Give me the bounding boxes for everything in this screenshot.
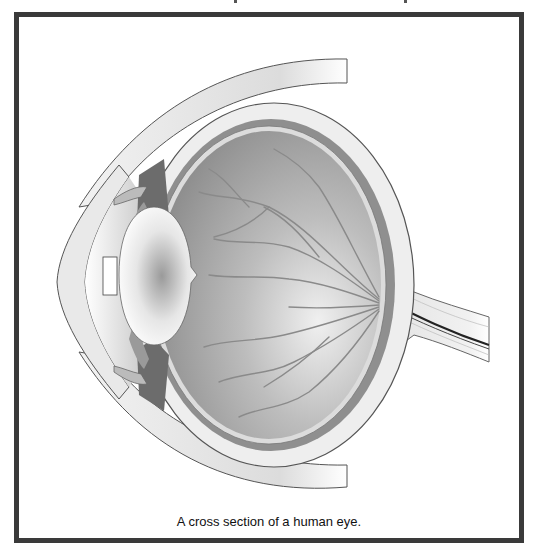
figure-caption: A cross section of a human eye. bbox=[19, 514, 519, 529]
figure-frame: A cross section of a human eye. bbox=[14, 12, 524, 543]
cropped-mark bbox=[234, 0, 237, 3]
eye-cross-section-diagram bbox=[19, 17, 519, 538]
cropped-mark bbox=[404, 0, 407, 3]
cropped-top-fragments bbox=[0, 0, 545, 12]
pupil bbox=[103, 257, 117, 295]
